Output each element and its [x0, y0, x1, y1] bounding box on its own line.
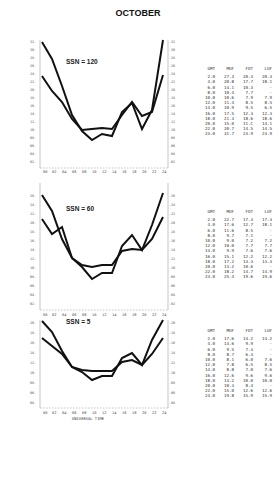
- svg-text:-18: -18: [169, 230, 175, 234]
- svg-text:22: 22: [152, 313, 156, 317]
- col-fot: FOT: [234, 209, 253, 214]
- svg-text:-06: -06: [169, 284, 175, 288]
- col-muf: MUF: [215, 328, 234, 333]
- svg-text:18: 18: [132, 170, 136, 174]
- col-luf: LUF: [253, 328, 272, 333]
- svg-text:12: 12: [102, 411, 106, 415]
- svg-text:24: 24: [162, 313, 166, 317]
- svg-text:-14: -14: [169, 351, 175, 355]
- table-row: 24.031.723.923.9: [196, 131, 272, 136]
- svg-text:26-: 26-: [30, 64, 36, 68]
- svg-text:-22: -22: [169, 80, 175, 84]
- svg-text:22-: 22-: [30, 212, 36, 216]
- svg-text:02-: 02-: [30, 160, 36, 164]
- svg-text:04-: 04-: [30, 152, 36, 156]
- svg-text:-12: -12: [169, 257, 175, 261]
- svg-text:32-: 32-: [30, 40, 36, 44]
- svg-text:12-: 12-: [30, 257, 36, 261]
- svg-text:-24: -24: [169, 72, 175, 76]
- col-gmt: GMT: [196, 66, 215, 71]
- svg-text:20-: 20-: [30, 221, 36, 225]
- svg-text:14: 14: [112, 411, 116, 415]
- svg-text:02-: 02-: [30, 302, 36, 306]
- svg-text:06-: 06-: [30, 144, 36, 148]
- svg-text:08-: 08-: [30, 136, 36, 140]
- svg-text:-12: -12: [169, 361, 175, 365]
- svg-text:-02: -02: [169, 302, 175, 306]
- svg-text:00: 00: [43, 313, 47, 317]
- x-axis-title: UNIVERSAL TIME: [72, 416, 104, 421]
- data-table: GMT MUF FOT LUF 2.017.614.214.2 4.013.69…: [196, 328, 272, 399]
- svg-text:12: 12: [102, 170, 106, 174]
- svg-text:-20: -20: [169, 221, 175, 225]
- svg-text:18: 18: [132, 313, 136, 317]
- svg-text:04-: 04-: [30, 401, 36, 405]
- svg-text:-16: -16: [169, 341, 175, 345]
- svg-text:20-: 20-: [30, 88, 36, 92]
- svg-text:10: 10: [92, 313, 96, 317]
- svg-text:10: 10: [92, 411, 96, 415]
- svg-text:-26: -26: [169, 64, 175, 68]
- svg-text:-08: -08: [169, 275, 175, 279]
- svg-text:08: 08: [82, 313, 86, 317]
- svg-text:22: 22: [152, 411, 156, 415]
- svg-text:06: 06: [72, 411, 76, 415]
- svg-text:16-: 16-: [30, 104, 36, 108]
- ssn-label: SSN = 120: [66, 58, 98, 65]
- svg-text:14-: 14-: [30, 112, 36, 116]
- svg-text:-20: -20: [169, 321, 175, 325]
- svg-text:24-: 24-: [30, 203, 36, 207]
- data-table: GMT MUF FOT LUF 2.022.717.317.3 4.017.61…: [196, 209, 272, 280]
- chart-frame: [40, 40, 168, 168]
- svg-text:12-: 12-: [30, 361, 36, 365]
- svg-text:18-: 18-: [30, 230, 36, 234]
- svg-text:-04: -04: [169, 293, 175, 297]
- svg-text:10-: 10-: [30, 266, 36, 270]
- panel-ssn-120: 32-30-28- 26-24-22- 20-18-16- 14-12-10- …: [0, 0, 276, 175]
- svg-text:-16: -16: [169, 104, 175, 108]
- svg-text:18: 18: [132, 411, 136, 415]
- svg-text:14: 14: [112, 170, 116, 174]
- svg-text:14-: 14-: [30, 351, 36, 355]
- svg-text:16: 16: [122, 411, 126, 415]
- table-row: 24.019.815.915.9: [196, 393, 272, 398]
- svg-text:08: 08: [82, 411, 86, 415]
- svg-text:16-: 16-: [30, 239, 36, 243]
- table-header: GMT MUF FOT LUF: [196, 328, 272, 333]
- svg-text:24-: 24-: [30, 72, 36, 76]
- muf-line: [42, 40, 163, 140]
- svg-text:-28: -28: [169, 56, 175, 60]
- x-ticks: 000204 060810 121416 182022 24: [43, 411, 166, 415]
- svg-text:20: 20: [142, 313, 146, 317]
- svg-text:00: 00: [43, 170, 47, 174]
- col-fot: FOT: [234, 66, 253, 71]
- svg-text:00: 00: [43, 411, 47, 415]
- table-row: 24.025.419.619.6: [196, 274, 272, 279]
- svg-text:04: 04: [62, 313, 66, 317]
- svg-text:06: 06: [72, 313, 76, 317]
- svg-text:04-: 04-: [30, 293, 36, 297]
- svg-text:-12: -12: [169, 120, 175, 124]
- svg-text:06-: 06-: [30, 391, 36, 395]
- svg-text:16-: 16-: [30, 341, 36, 345]
- svg-text:04: 04: [62, 170, 66, 174]
- ssn-label: SSN = 60: [66, 205, 94, 212]
- svg-text:-10: -10: [169, 371, 175, 375]
- svg-text:-32: -32: [169, 40, 175, 44]
- svg-text:-24: -24: [169, 203, 175, 207]
- svg-text:24: 24: [162, 170, 166, 174]
- svg-text:08: 08: [82, 170, 86, 174]
- svg-text:02: 02: [52, 313, 56, 317]
- col-gmt: GMT: [196, 328, 215, 333]
- col-luf: LUF: [253, 209, 272, 214]
- svg-text:12: 12: [102, 313, 106, 317]
- svg-text:22-: 22-: [30, 80, 36, 84]
- col-muf: MUF: [215, 66, 234, 71]
- svg-text:24: 24: [162, 411, 166, 415]
- data-table: GMT MUF FOT LUF 2.027.420.320.3 4.020.81…: [196, 66, 272, 137]
- svg-text:-10: -10: [169, 266, 175, 270]
- col-gmt: GMT: [196, 209, 215, 214]
- svg-text:12-: 12-: [30, 120, 36, 124]
- svg-text:20: 20: [142, 170, 146, 174]
- svg-text:06: 06: [72, 170, 76, 174]
